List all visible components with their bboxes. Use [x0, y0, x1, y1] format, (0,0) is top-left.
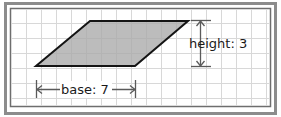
base-label: base: 7 — [61, 82, 109, 97]
height-label: height: 3 — [189, 36, 247, 51]
parallelogram-diagram-container: height: 3 base: 7 — [0, 0, 281, 117]
parallelogram-diagram-svg: height: 3 base: 7 — [0, 0, 281, 117]
